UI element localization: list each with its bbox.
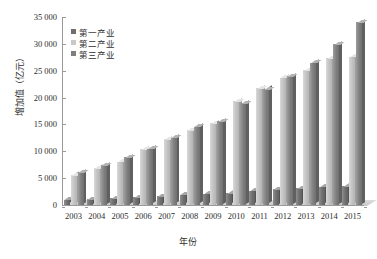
x-axis-tick [62, 207, 65, 208]
bar-group [155, 17, 178, 205]
bar-1 [71, 175, 77, 205]
bar-2 [287, 76, 293, 205]
bar-1 [164, 139, 170, 205]
bar-0 [319, 187, 325, 205]
bar-group [201, 17, 224, 205]
bar-1 [187, 130, 193, 205]
x-axis-line [62, 205, 364, 206]
y-axis-tick-label: 25 000 [34, 66, 62, 76]
x-axis-tick [85, 207, 88, 208]
bar-group [225, 17, 248, 205]
legend-swatch-icon [71, 51, 76, 56]
bar-2 [124, 157, 130, 205]
bar-2 [101, 165, 107, 205]
legend-label: 第三产业 [79, 48, 115, 60]
bar-1 [117, 162, 123, 206]
y-axis-tick-label: 5 000 [38, 173, 62, 183]
bar-group [341, 17, 364, 205]
y-axis-tick-label: 20 000 [34, 93, 62, 103]
bar-group [271, 17, 294, 205]
bar-group [178, 17, 201, 205]
x-axis-tick-label: 2010 [225, 211, 248, 221]
bar-1 [349, 57, 355, 205]
y-axis-title: 增加值（亿元） [13, 30, 26, 140]
bar-1 [210, 123, 216, 205]
x-axis-tick [108, 207, 111, 208]
x-axis-tick-label: 2014 [318, 211, 341, 221]
legend-swatch-icon [71, 40, 76, 45]
x-axis-tick-label: 2012 [271, 211, 294, 221]
x-axis-title: 年份 [0, 235, 375, 248]
bar-group [248, 17, 271, 205]
y-axis-tick-label: 15 000 [34, 119, 62, 129]
x-axis-tick [248, 207, 251, 208]
bar-0 [342, 186, 348, 205]
x-axis-tick [294, 207, 297, 208]
bar-group [132, 17, 155, 205]
y-axis-tick-label: 35 000 [34, 12, 62, 22]
y-axis-tick-label: 30 000 [34, 39, 62, 49]
bar-2 [263, 89, 269, 205]
bar-2 [147, 149, 153, 205]
bar-0 [273, 189, 279, 205]
bar-1 [326, 58, 332, 205]
bar-0 [180, 195, 186, 205]
y-axis-tick-label: 0 [53, 200, 62, 210]
x-axis-tick-label: 2013 [294, 211, 317, 221]
bar-2 [78, 172, 84, 205]
x-axis-tick [225, 207, 228, 208]
x-axis-tick-label: 2009 [201, 211, 224, 221]
bar-2 [171, 138, 177, 205]
bar-2 [194, 127, 200, 205]
bar-0 [226, 193, 232, 205]
bar-2 [240, 103, 246, 205]
bar-group [318, 17, 341, 205]
bar-0 [249, 191, 255, 205]
x-axis-tick [178, 207, 181, 208]
legend-swatch-icon [71, 29, 76, 34]
bar-1 [140, 149, 146, 205]
x-axis-tick-label: 2015 [341, 211, 364, 221]
x-axis-tick [201, 207, 204, 208]
bar-1 [94, 168, 100, 205]
bar-1 [280, 78, 286, 205]
bar-0 [64, 200, 70, 205]
x-axis-tick-label: 2003 [62, 211, 85, 221]
legend-item-tertiary: 第三产业 [71, 48, 115, 59]
bar-0 [87, 199, 93, 205]
chart-legend: 第一产业 第二产业 第三产业 [71, 26, 115, 59]
bar-2 [217, 121, 223, 205]
x-axis-tick-label: 2004 [85, 211, 108, 221]
x-axis-tick [271, 207, 274, 208]
bar-1 [233, 101, 239, 205]
legend-item-secondary: 第二产业 [71, 37, 115, 48]
x-axis-tick-label: 2011 [248, 211, 271, 221]
x-axis-tick [341, 207, 344, 208]
x-axis-tick [155, 207, 158, 208]
legend-item-primary: 第一产业 [71, 26, 115, 37]
x-axis-tick-label: 2008 [178, 211, 201, 221]
x-axis-labels: 2003200420052006200720082009201020112012… [62, 211, 364, 221]
bar-group [294, 17, 317, 205]
bar-0 [203, 194, 209, 205]
bar-2 [333, 44, 339, 205]
bar-0 [133, 197, 139, 205]
x-axis-tick [364, 207, 367, 208]
x-axis-tick-label: 2007 [155, 211, 178, 221]
bar-1 [303, 70, 309, 205]
x-axis-tick [318, 207, 321, 208]
bar-0 [157, 196, 163, 205]
x-axis-tick [132, 207, 135, 208]
bar-0 [296, 188, 302, 205]
x-axis-tick-label: 2005 [108, 211, 131, 221]
bar-2 [310, 63, 316, 205]
bar-2 [356, 22, 362, 205]
bar-0 [110, 198, 116, 205]
bar-1 [256, 88, 262, 205]
y-axis-tick-label: 10 000 [34, 146, 62, 156]
x-axis-tick-label: 2006 [132, 211, 155, 221]
